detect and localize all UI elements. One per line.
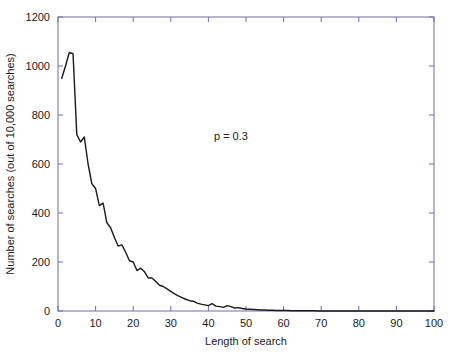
x-tick-label: 60: [277, 317, 289, 329]
x-tick-label: 10: [89, 317, 101, 329]
y-tick-label: 600: [32, 158, 50, 170]
y-tick-label: 1000: [26, 60, 50, 72]
x-tick-label: 30: [165, 317, 177, 329]
annotation-p-value: p = 0.3: [214, 130, 248, 142]
y-tick-label: 800: [32, 109, 50, 121]
figure-background: [0, 0, 452, 362]
y-tick-label: 0: [44, 305, 50, 317]
y-axis-label: Number of searches (out of 10,000 search…: [4, 53, 16, 274]
x-tick-label: 80: [353, 317, 365, 329]
x-tick-label: 70: [315, 317, 327, 329]
y-tick-label: 400: [32, 207, 50, 219]
x-tick-label: 100: [425, 317, 443, 329]
x-tick-label: 0: [55, 317, 61, 329]
x-tick-label: 40: [202, 317, 214, 329]
y-tick-label: 200: [32, 256, 50, 268]
x-axis-label: Length of search: [205, 335, 287, 347]
x-tick-label: 90: [390, 317, 402, 329]
chart-annotations: p = 0.3: [214, 130, 248, 142]
x-tick-label: 20: [127, 317, 139, 329]
figure-container: 0102030405060708090100 02004006008001000…: [0, 0, 452, 362]
y-tick-label: 1200: [26, 11, 50, 23]
x-tick-label: 50: [240, 317, 252, 329]
chart-svg: 0102030405060708090100 02004006008001000…: [0, 0, 452, 362]
